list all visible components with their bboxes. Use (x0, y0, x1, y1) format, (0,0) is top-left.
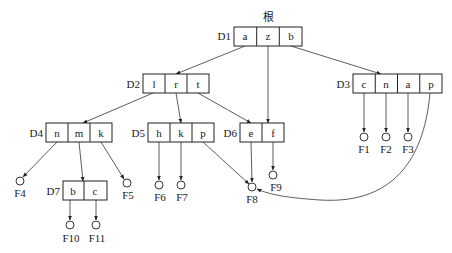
leaf-f6: F6 (154, 181, 166, 203)
node-label: D5 (132, 127, 146, 139)
leaf-label: F7 (176, 191, 188, 203)
node-d2: D2 l r t (127, 74, 209, 93)
edge-d2r-d5 (176, 93, 181, 123)
leaf-f3: F3 (402, 133, 414, 155)
leaf-f2: F2 (380, 133, 392, 155)
key-cell: c (93, 185, 98, 197)
key-cell: l (152, 78, 155, 90)
node-d1: D1 a z b (218, 27, 302, 46)
leaf-f10: F10 (62, 221, 80, 244)
node-d3: D3 c n a p (337, 74, 442, 93)
leaf-label: F11 (89, 232, 106, 244)
key-cell: n (54, 127, 60, 139)
edge-d2t-d6 (198, 93, 251, 123)
edge-d1a-d2 (176, 46, 245, 74)
leaf-label: F3 (402, 143, 414, 155)
leaf-label: F9 (270, 181, 282, 193)
edge-d6e-f8 (251, 142, 252, 182)
edge-d5p-f8 (203, 142, 249, 184)
leaf-label: F6 (154, 191, 166, 203)
edge-d4n-f4 (23, 142, 57, 177)
leaf-label: F8 (246, 193, 258, 205)
key-cell: h (156, 127, 162, 139)
trie-diagram: 根 D1 a z b D2 (0, 0, 452, 253)
key-cell: a (406, 78, 411, 90)
node-d6: D6 e f (224, 123, 284, 142)
leaf-f1: F1 (358, 133, 370, 155)
key-cell: t (196, 78, 199, 90)
node-label: D4 (30, 127, 44, 139)
node-d5: D5 h k p (132, 123, 214, 142)
node-label: D6 (224, 127, 238, 139)
leaf-f8: F8 (246, 183, 258, 205)
node-label: D1 (218, 30, 231, 42)
node-d7: D7 b c (47, 181, 107, 200)
leaf-f5: F5 (122, 179, 134, 201)
key-cell: z (266, 30, 271, 42)
edge-d1b-d3 (291, 46, 381, 74)
edge-d2l-d4 (83, 93, 153, 123)
key-cell: m (75, 127, 84, 139)
leaf-label: F2 (380, 143, 392, 155)
node-label: D3 (337, 78, 351, 90)
leaf-label: F4 (14, 187, 26, 199)
key-cell: k (178, 127, 184, 139)
leaf-f9: F9 (269, 171, 282, 193)
node-d4: D4 n m k (30, 123, 112, 142)
key-cell: p (428, 78, 434, 90)
root-title: 根 (263, 10, 274, 23)
key-cell: b (70, 185, 76, 197)
key-cell: r (174, 78, 178, 90)
node-label: D2 (127, 78, 140, 90)
node-label: D7 (47, 185, 61, 197)
leaf-f11: F11 (89, 221, 106, 244)
edge-d4m-d7 (79, 142, 83, 181)
key-cell: c (362, 78, 367, 90)
key-cell: b (288, 30, 294, 42)
key-cell: a (243, 30, 248, 42)
edge-d4k-f5 (101, 142, 124, 179)
key-cell: e (249, 127, 254, 139)
leaf-label: F10 (62, 232, 80, 244)
leaf-f4: F4 (14, 177, 26, 199)
leaf-label: F1 (358, 143, 370, 155)
key-cell: p (200, 127, 206, 139)
key-cell: f (271, 127, 275, 139)
key-cell: n (383, 78, 389, 90)
key-cell: k (98, 127, 104, 139)
leaf-f7: F7 (176, 181, 188, 203)
leaf-label: F5 (122, 189, 134, 201)
